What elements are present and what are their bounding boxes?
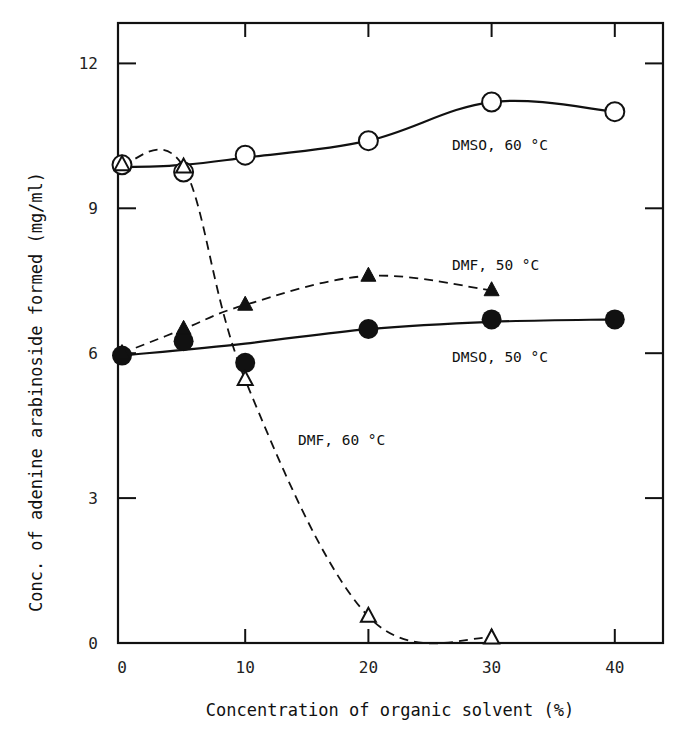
label-dmf-50: DMF, 50 °C — [452, 257, 539, 273]
y-tick-label: 9 — [88, 199, 98, 218]
y-tick-label: 3 — [88, 489, 98, 508]
series-curves — [122, 101, 615, 644]
marker-filled-circle — [482, 309, 502, 329]
marker-filled-triangle — [361, 267, 376, 281]
plot-frame — [118, 23, 663, 643]
x-tick-label: 0 — [117, 658, 127, 677]
y-tick-label: 6 — [88, 344, 98, 363]
x-tick-label: 20 — [359, 658, 378, 677]
marker-filled-triangle — [176, 320, 191, 334]
x-tick-label: 30 — [482, 658, 501, 677]
marker-open-circle — [236, 146, 255, 165]
axis-ticks — [118, 23, 663, 643]
marker-open-triangle — [484, 629, 499, 643]
marker-open-triangle — [238, 371, 253, 385]
marker-filled-circle — [358, 319, 378, 339]
label-dmso-60: DMSO, 60 °C — [452, 137, 548, 153]
y-axis-title: Conc. of adenine arabinoside formed (mg/… — [26, 172, 46, 612]
marker-filled-circle — [605, 309, 625, 329]
marker-open-circle — [605, 102, 624, 121]
label-dmso-50: DMSO, 50 °C — [452, 349, 548, 365]
y-tick-label: 12 — [79, 54, 98, 73]
y-tick-label: 0 — [88, 634, 98, 653]
series-markers — [112, 93, 625, 644]
chart: 010203040036912 DMSO, 60 °C DMF, 50 °C D… — [0, 0, 685, 748]
x-tick-label: 10 — [236, 658, 255, 677]
marker-filled-triangle — [484, 282, 499, 296]
marker-open-triangle — [361, 608, 376, 622]
label-dmf-60: DMF, 60 °C — [298, 432, 385, 448]
x-axis-title: Concentration of organic solvent (%) — [206, 700, 574, 720]
marker-open-circle — [359, 131, 378, 150]
marker-open-circle — [482, 93, 501, 112]
x-tick-label: 40 — [605, 658, 624, 677]
curve-dmf-60-c — [122, 150, 492, 644]
